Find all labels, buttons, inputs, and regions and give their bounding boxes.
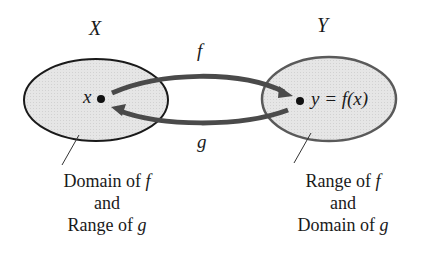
caption-left-line2: and: [48, 192, 166, 214]
caption-left-line1: Domain of f: [48, 170, 166, 192]
caption-text: Domain of: [64, 171, 146, 191]
element-x-dot: [97, 95, 105, 103]
caption-left: Domain of f and Range of g: [48, 170, 166, 236]
function-f-label: f: [197, 40, 202, 62]
caption-right-line1: Range of f: [284, 170, 402, 192]
set-x-ellipse: [24, 59, 168, 141]
set-x-label: X: [89, 17, 101, 40]
caption-text: Domain of: [298, 215, 380, 235]
element-x-label: x: [83, 86, 91, 108]
function-mapping-diagram: X Y f g x y = f(x) Domain of f and Range…: [0, 0, 422, 257]
element-y-dot: [296, 97, 304, 105]
caption-right-line3: Domain of g: [284, 214, 402, 236]
caption-right: Range of f and Domain of g: [284, 170, 402, 236]
function-g-label: g: [197, 131, 207, 153]
caption-var: g: [379, 215, 388, 235]
caption-var: g: [137, 215, 146, 235]
caption-var: f: [375, 171, 380, 191]
set-y-label: Y: [317, 14, 328, 37]
caption-text: Range of: [306, 171, 376, 191]
caption-var: f: [145, 171, 150, 191]
caption-right-line2: and: [284, 192, 402, 214]
caption-left-line3: Range of g: [48, 214, 166, 236]
element-y-label: y = f(x): [311, 88, 368, 110]
caption-text: Range of: [68, 215, 138, 235]
